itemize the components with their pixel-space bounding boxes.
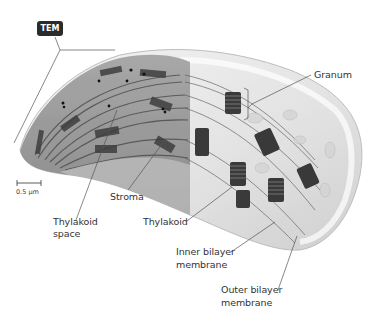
chloroplast-illustration (0, 0, 385, 321)
label-thylakoid: Thylakoid (143, 216, 188, 228)
chloroplast-diagram: TEM 0.5 µm Granum Stroma Thylakoid space… (0, 0, 385, 321)
label-inner-membrane-2: membrane (176, 259, 227, 271)
label-thylakoid-space-2: space (53, 228, 80, 240)
tem-micrograph (15, 55, 190, 215)
label-granum: Granum (314, 69, 352, 81)
label-inner-membrane-1: Inner bilayer (176, 246, 235, 258)
label-outer-membrane-1: Outer bilayer (221, 284, 282, 296)
label-thylakoid-space-1: Thylakoid (53, 216, 98, 228)
scale-bar-label: 0.5 µm (16, 188, 39, 196)
label-outer-membrane-2: membrane (221, 297, 272, 309)
tem-leader (55, 37, 115, 50)
tem-badge: TEM (37, 21, 63, 36)
scale-bar (17, 180, 41, 186)
label-stroma: Stroma (110, 191, 144, 203)
